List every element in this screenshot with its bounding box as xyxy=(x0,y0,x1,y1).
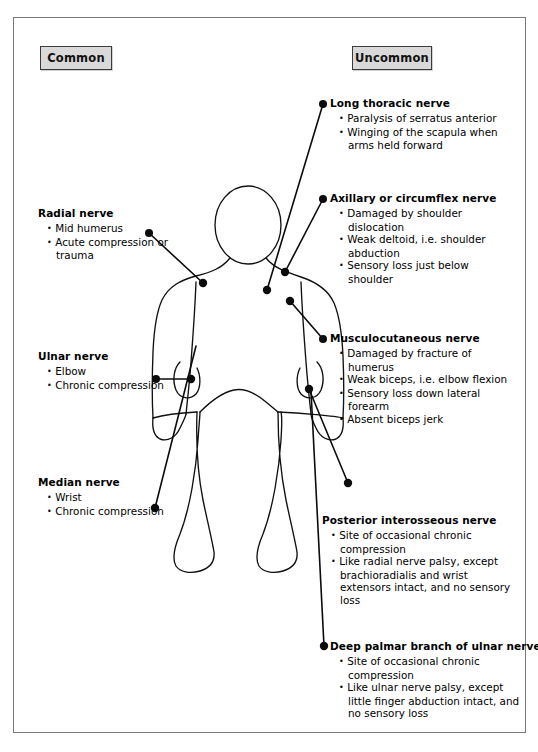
callout-bullet-list: Site of occasional chronic compression L… xyxy=(330,655,522,720)
callout-bullet: Damaged by shoulder dislocation xyxy=(339,207,505,233)
callout-bullet: Sensory loss just below shoulder xyxy=(339,259,505,285)
callout-bullet-list: Site of occasional chronic compression L… xyxy=(322,529,518,607)
callout-bullet: Sensory loss down lateral forearm xyxy=(339,387,516,413)
callout-bullet-list: Wrist Chronic compression xyxy=(38,491,198,518)
callout-median-nerve[interactable]: Median nerve Wrist Chronic compression xyxy=(38,476,198,518)
callout-bullet: Wrist xyxy=(47,491,198,505)
callout-bullet: Chronic compression xyxy=(47,505,198,519)
callout-title: Axillary or circumflex nerve xyxy=(330,192,505,205)
callout-title: Long thoracic nerve xyxy=(330,97,510,110)
callout-bullet: Mid humerus xyxy=(47,222,188,236)
callout-title: Radial nerve xyxy=(38,207,188,220)
callout-bullet: Winging of the scapula when arms held fo… xyxy=(339,126,510,152)
callout-title: Deep palmar branch of ulnar nerve xyxy=(330,640,522,653)
callout-axillary-circumflex-nerve[interactable]: Axillary or circumflex nerve Damaged by … xyxy=(330,192,505,286)
callout-bullet-list: Elbow Chronic compression xyxy=(38,365,198,392)
callout-bullet: Acute compression or trauma xyxy=(47,236,188,262)
callout-deep-palmar-branch-of-ulnar-nerve[interactable]: Deep palmar branch of ulnar nerve Site o… xyxy=(330,640,522,720)
callout-bullet: Weak biceps, i.e. elbow flexion xyxy=(339,373,516,387)
callout-bullet: Weak deltoid, i.e. shoulder abduction xyxy=(339,233,505,259)
callout-bullet-list: Damaged by shoulder dislocation Weak del… xyxy=(330,207,505,286)
callout-bullet-list: Damaged by fracture of humerus Weak bice… xyxy=(330,347,516,427)
callout-bullet: Like radial nerve palsy, except brachior… xyxy=(331,555,518,606)
callout-ulnar-nerve[interactable]: Ulnar nerve Elbow Chronic compression xyxy=(38,350,198,392)
callout-bullet: Chronic compression xyxy=(47,379,198,393)
callout-bullet: Elbow xyxy=(47,365,198,379)
callout-long-thoracic-nerve[interactable]: Long thoracic nerve Paralysis of serratu… xyxy=(330,97,510,152)
diagram-page: Common Uncommon Long thoracic nerve Para… xyxy=(0,0,538,752)
callout-bullet: Absent biceps jerk xyxy=(339,413,516,427)
callout-posterior-interosseous-nerve[interactable]: Posterior interosseous nerve Site of occ… xyxy=(322,514,518,607)
callout-title: Musculocutaneous nerve xyxy=(330,332,516,345)
callout-musculocutaneous-nerve[interactable]: Musculocutaneous nerve Damaged by fractu… xyxy=(330,332,516,427)
callout-title: Median nerve xyxy=(38,476,198,489)
callout-radial-nerve[interactable]: Radial nerve Mid humerus Acute compressi… xyxy=(38,207,188,262)
legend-chip-uncommon[interactable]: Uncommon xyxy=(352,46,432,70)
callout-bullet: Site of occasional chronic compression xyxy=(339,655,522,681)
callout-title: Ulnar nerve xyxy=(38,350,198,363)
callout-bullet: Site of occasional chronic compression xyxy=(331,529,518,555)
legend-chip-common[interactable]: Common xyxy=(40,46,112,70)
callout-bullet-list: Mid humerus Acute compression or trauma xyxy=(38,222,188,262)
callout-title: Posterior interosseous nerve xyxy=(322,514,518,527)
callout-bullet-list: Paralysis of serratus anterior Winging o… xyxy=(330,112,510,152)
callout-bullet: Damaged by fracture of humerus xyxy=(339,347,516,373)
callout-bullet: Like ulnar nerve palsy, except little fi… xyxy=(339,681,522,720)
callout-bullet: Paralysis of serratus anterior xyxy=(339,112,510,126)
